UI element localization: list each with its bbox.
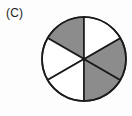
pie-chart-figure — [0, 0, 132, 116]
figure-panel: (C) — [0, 0, 132, 116]
